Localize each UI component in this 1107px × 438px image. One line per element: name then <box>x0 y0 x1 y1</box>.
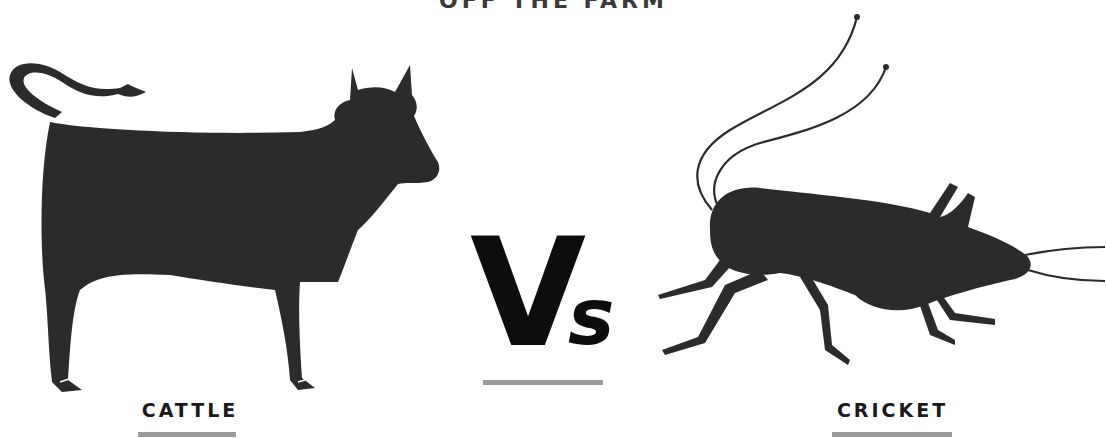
cattle-underline <box>138 432 236 437</box>
cricket-label: CRICKET <box>830 399 955 421</box>
versus-underline <box>483 380 603 385</box>
cattle-label: CATTLE <box>135 399 245 421</box>
versus-mark: V s <box>470 240 620 370</box>
versus-s: s <box>568 278 614 356</box>
cow-silhouette-icon <box>0 50 450 400</box>
cricket-silhouette-icon <box>650 5 1107 375</box>
cricket-underline <box>832 432 952 437</box>
